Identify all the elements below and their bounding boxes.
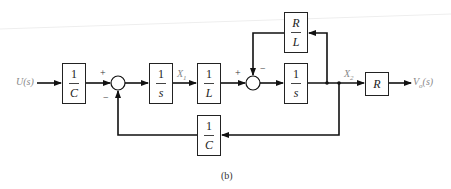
input-label: U(s) [16, 76, 34, 87]
signal-x2-label: X2 [344, 68, 354, 82]
rl-feedback-denominator: L [293, 34, 300, 48]
sum1-plus-sign: + [100, 67, 106, 78]
figure-caption: (b) [221, 170, 233, 181]
c-feedback-fraction: 1 C [204, 120, 214, 151]
integrator-2-fraction: 1 s [291, 68, 301, 99]
c-feedback-denominator: C [205, 137, 213, 151]
inductance-gain-fraction: 1 L [204, 68, 214, 99]
integrator-1-numerator: 1 [158, 68, 164, 82]
integrator-2-numerator: 1 [293, 68, 299, 82]
inductance-gain-numerator: 1 [206, 68, 212, 82]
output-label: Vo(s) [413, 76, 433, 90]
inductance-gain-block: 1 L [197, 63, 221, 104]
signal-x1-label: X1 [177, 68, 187, 82]
block-diagram: U(s) 1 C + − 1 s X1 1 L + − 1 [0, 0, 451, 189]
output-gain-block: R [365, 72, 389, 96]
c-feedback-block: 1 C [197, 115, 221, 156]
integrator-1-fraction: 1 s [156, 68, 166, 99]
sum1-minus-sign: − [103, 92, 109, 103]
integrator-2-block: 1 s [284, 63, 308, 104]
rl-feedback-numerator: R [292, 17, 299, 31]
output-gain-label: R [373, 77, 380, 92]
input-gain-block: 1 C [62, 63, 86, 104]
input-gain-numerator: 1 [71, 68, 77, 82]
inductance-gain-denominator: L [206, 85, 213, 99]
integrator-1-block: 1 s [149, 63, 173, 104]
input-gain-denominator: C [70, 85, 78, 99]
summing-junction-1 [111, 76, 125, 90]
pickoff-node-1 [325, 81, 329, 85]
integrator-2-denominator: s [294, 85, 299, 99]
integrator-1-denominator: s [159, 85, 164, 99]
rl-feedback-block: R L [284, 12, 308, 53]
summing-junction-2 [246, 76, 260, 90]
c-feedback-numerator: 1 [206, 120, 212, 134]
sum2-minus-sign: − [260, 63, 266, 74]
input-gain-fraction: 1 C [69, 68, 79, 99]
rl-feedback-fraction: R L [291, 17, 301, 48]
pickoff-node-2 [337, 81, 341, 85]
sum2-plus-sign: + [235, 67, 241, 78]
